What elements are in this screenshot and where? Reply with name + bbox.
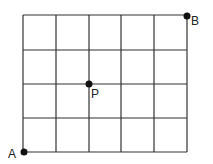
point-a-dot <box>21 149 28 156</box>
label-b: B <box>191 14 199 28</box>
label-a: A <box>8 147 16 161</box>
point-b-dot <box>184 13 191 20</box>
label-p: P <box>91 87 99 101</box>
grid-diagram: A P B <box>0 0 213 164</box>
grid-lines <box>23 15 187 152</box>
